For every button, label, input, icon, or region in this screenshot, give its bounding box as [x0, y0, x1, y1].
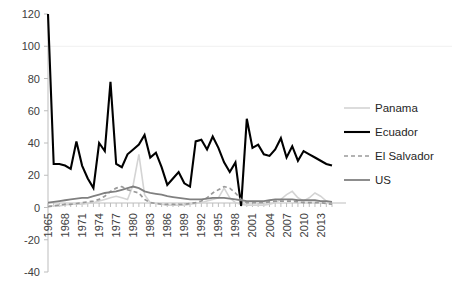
- x-tick-label: 2001: [246, 213, 258, 237]
- x-tick-label: 2004: [264, 213, 276, 237]
- x-tick-label: 1965: [42, 213, 54, 237]
- y-tick-label: 120: [22, 8, 40, 20]
- y-tick-label: 100: [22, 40, 40, 52]
- y-tick-label: 60: [28, 105, 40, 117]
- x-tick-label: 2013: [315, 213, 327, 237]
- legend-label-panama: Panama: [375, 102, 418, 114]
- series-line-us: [48, 187, 332, 203]
- legend-label-us: US: [375, 174, 391, 186]
- x-tick-label: 2010: [298, 213, 310, 237]
- series-group: [48, 14, 332, 207]
- x-tick-label: 2007: [281, 213, 293, 237]
- legend-label-ecuador: Ecuador: [375, 126, 418, 138]
- y-tick-label: 40: [28, 137, 40, 149]
- x-tick-label: 1980: [127, 213, 139, 237]
- x-tick-label: 1983: [144, 213, 156, 237]
- x-tick-label: 1986: [161, 213, 173, 237]
- line-chart: 120100806040200-20-40 196519681971197419…: [0, 0, 455, 289]
- x-tick-label: 1968: [59, 213, 71, 237]
- x-tick-label: 1989: [178, 213, 190, 237]
- x-tick-label: 1974: [93, 213, 105, 237]
- y-tick-label: -20: [24, 234, 40, 246]
- chart-container: 120100806040200-20-40 196519681971197419…: [0, 0, 455, 289]
- y-tick-label: -40: [24, 266, 40, 278]
- x-tick-label: 1971: [76, 213, 88, 237]
- y-tick-label: 20: [28, 169, 40, 181]
- y-tick-label: 0: [34, 202, 40, 214]
- x-tick-label: 1995: [212, 213, 224, 237]
- x-tick-label: 1992: [195, 213, 207, 237]
- y-tick-label: 80: [28, 73, 40, 85]
- x-tick-label: 1998: [229, 213, 241, 237]
- chart-legend: PanamaEcuadorEl SalvadorUS: [344, 102, 434, 186]
- series-line-ecuador: [48, 14, 332, 206]
- x-axis: 1965196819711974197719801983198619891992…: [42, 203, 346, 237]
- x-tick-label: 1977: [110, 213, 122, 237]
- legend-label-el-salvador: El Salvador: [375, 150, 434, 162]
